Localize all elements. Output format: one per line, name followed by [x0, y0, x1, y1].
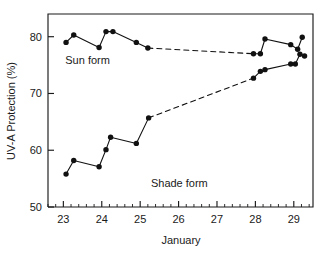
uv-a-protection-line-chart: 23242526272829 50607080 Sun formShade fo… [0, 0, 330, 256]
y-tick-label: 80 [30, 31, 42, 43]
y-tick-label: 70 [30, 87, 42, 99]
data-point [288, 42, 293, 47]
data-point [110, 29, 115, 34]
data-point [288, 61, 293, 66]
data-point [262, 67, 267, 72]
data-point [108, 134, 113, 139]
x-tick-label: 27 [211, 213, 223, 225]
series-label-sun-form: Sun form [65, 54, 110, 66]
y-axis-major-ticks [48, 37, 54, 207]
x-tick-label: 29 [288, 213, 300, 225]
y-axis-title: UV-A Protection (%) [5, 62, 17, 160]
data-point [63, 40, 68, 45]
data-point [297, 52, 302, 57]
data-series-layer [63, 29, 307, 177]
data-point [96, 45, 101, 50]
data-point [63, 171, 68, 176]
series-annotations: Sun formShade form [65, 54, 208, 189]
x-axis-title: January [161, 234, 201, 246]
data-point [251, 75, 256, 80]
x-axis-tick-labels: 23242526272829 [57, 213, 300, 225]
y-tick-label: 60 [30, 144, 42, 156]
x-tick-label: 25 [134, 213, 146, 225]
data-point [71, 158, 76, 163]
x-tick-label: 23 [57, 213, 69, 225]
chart-container: 23242526272829 50607080 Sun formShade fo… [0, 0, 330, 256]
y-tick-label: 50 [30, 201, 42, 213]
series-label-shade-form: Shade form [151, 177, 208, 189]
x-tick-label: 26 [172, 213, 184, 225]
data-point [295, 46, 300, 51]
data-point [302, 53, 307, 58]
x-tick-label: 28 [249, 213, 261, 225]
data-point [103, 147, 108, 152]
x-axis-major-ticks [63, 201, 293, 207]
series-sun-form [63, 29, 305, 57]
data-point [251, 51, 256, 56]
x-tick-label: 24 [96, 213, 108, 225]
series-line-solid [253, 54, 304, 78]
data-point [71, 32, 76, 37]
data-point [258, 69, 263, 74]
y-axis-tick-labels: 50607080 [30, 31, 42, 213]
series-shade-form [63, 52, 307, 177]
series-line-dashed [148, 48, 254, 54]
data-point [134, 40, 139, 45]
data-point [258, 51, 263, 56]
data-point [293, 61, 298, 66]
data-point [96, 164, 101, 169]
data-point [103, 29, 108, 34]
data-point [145, 45, 150, 50]
data-point [146, 115, 151, 120]
data-point [262, 36, 267, 41]
series-line-dashed [149, 78, 254, 118]
data-point [300, 35, 305, 40]
data-point [134, 141, 139, 146]
